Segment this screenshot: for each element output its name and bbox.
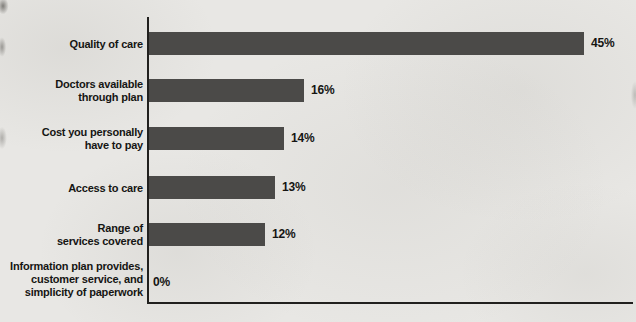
category-label-line: Doctors available bbox=[0, 78, 143, 91]
bar-chart: Quality of care45%Doctors availablethrou… bbox=[0, 0, 636, 322]
value-label: 45% bbox=[591, 32, 614, 55]
scanned-page: { "chart_data": { "type": "bar", "orient… bbox=[0, 0, 636, 322]
bar bbox=[149, 176, 275, 199]
bar bbox=[149, 79, 304, 102]
bar bbox=[149, 127, 284, 150]
value-label: 0% bbox=[153, 271, 170, 294]
category-label-line: Access to care bbox=[0, 181, 143, 194]
plot-area bbox=[147, 17, 633, 304]
category-label: Quality of care bbox=[0, 37, 143, 50]
category-label-line: services covered bbox=[0, 235, 143, 248]
category-label: Access to care bbox=[0, 181, 143, 194]
category-label-line: have to pay bbox=[0, 139, 143, 152]
value-label: 16% bbox=[311, 79, 334, 102]
category-label: Information plan provides,customer servi… bbox=[0, 260, 143, 299]
bar bbox=[149, 223, 265, 246]
bar bbox=[149, 32, 584, 55]
category-label: Cost you personallyhave to pay bbox=[0, 126, 143, 152]
category-label: Range ofservices covered bbox=[0, 222, 143, 248]
category-label-line: through plan bbox=[0, 91, 143, 104]
category-label-line: simplicity of paperwork bbox=[0, 286, 143, 299]
category-label: Doctors availablethrough plan bbox=[0, 78, 143, 104]
category-label-line: Cost you personally bbox=[0, 126, 143, 139]
value-label: 14% bbox=[291, 127, 314, 150]
value-label: 13% bbox=[282, 176, 305, 199]
category-label-line: customer service, and bbox=[0, 273, 143, 286]
category-label-line: Information plan provides, bbox=[0, 260, 143, 273]
category-label-line: Range of bbox=[0, 222, 143, 235]
category-label-line: Quality of care bbox=[0, 37, 143, 50]
value-label: 12% bbox=[272, 223, 295, 246]
